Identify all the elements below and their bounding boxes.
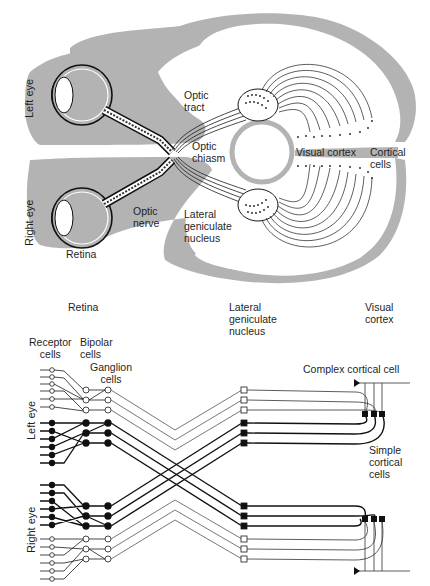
complex-cell-arrow-top	[354, 379, 360, 387]
left-eye-retina-filled	[40, 420, 111, 466]
label-simple-cortical-cells: Simple cortical cells	[369, 444, 402, 480]
right-eye-retina-open	[40, 536, 111, 581]
visual-pathway-diagram	[0, 0, 430, 586]
label-left-eye-top: Left eye	[23, 79, 35, 118]
label-left-eye-bottom: Left eye	[25, 401, 37, 440]
label-optic-chiasm: Optic chiasm	[192, 140, 225, 164]
label-optic-nerve: Optic nerve	[133, 205, 159, 229]
label-retina-top: Retina	[66, 248, 96, 260]
header-retina: Retina	[68, 301, 98, 313]
lgn-to-cortex-thick	[247, 414, 384, 526]
label-right-eye-bottom: Right eye	[25, 507, 37, 553]
lgn-cells	[241, 387, 247, 562]
label-optic-tract: Optic tract	[184, 89, 209, 113]
lgn-top	[238, 89, 278, 121]
label-lateral-geniculate-nucleus: Lateral geniculate nucleus	[184, 208, 232, 244]
label-receptor-cells: Receptor cells	[29, 336, 72, 360]
label-cortical-cells: Cortical cells	[370, 146, 406, 170]
label-complex-cortical-cell: Complex cortical cell	[303, 363, 399, 375]
label-bipolar-cells: Bipolar cells	[80, 336, 113, 360]
complex-cell-arrow-bottom	[354, 567, 360, 575]
right-eye-retina-filled	[40, 483, 111, 530]
label-right-eye-top: Right eye	[23, 200, 35, 246]
label-visual-cortex-top: Visual cortex	[296, 146, 356, 158]
header-lgn: Lateral geniculate nucleus	[229, 301, 277, 337]
header-visual-cortex: Visual cortex	[365, 301, 394, 325]
label-ganglion-cells: Ganglion cells	[90, 361, 132, 385]
